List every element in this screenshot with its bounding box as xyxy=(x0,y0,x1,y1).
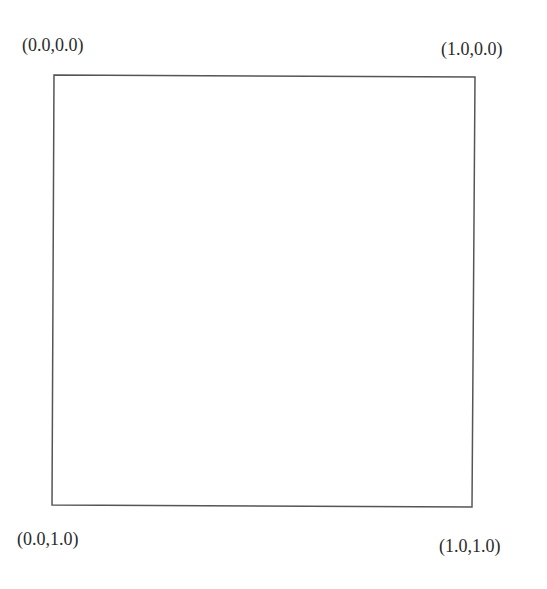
diagram-canvas xyxy=(0,0,547,589)
corner-label-bottom-right: (1.0,1.0) xyxy=(439,537,501,555)
corner-label-top-left: (0.0,0.0) xyxy=(22,36,84,54)
unit-square xyxy=(52,75,475,507)
corner-label-bottom-left: (0.0,1.0) xyxy=(17,530,79,548)
corner-label-top-right: (1.0,0.0) xyxy=(441,40,503,58)
